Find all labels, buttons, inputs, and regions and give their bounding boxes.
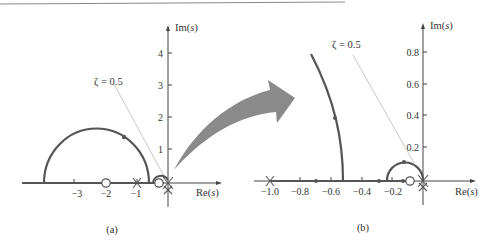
y-tick-label: 3 (158, 80, 163, 91)
zero-marker (102, 179, 110, 187)
x-axis-arrow-b (470, 179, 476, 183)
y-tick-label: 4 (158, 48, 163, 59)
zeta-line-a (114, 84, 165, 178)
y-tick-label: 2 (158, 112, 163, 123)
locus-arc-a (44, 128, 149, 183)
y-tick-label: 0.8 (407, 47, 420, 58)
x-tick-label: −3 (72, 188, 83, 199)
x-tick-label: −0.6 (322, 186, 340, 197)
zero-marker (406, 177, 414, 185)
y-tick-label: 0.2 (407, 142, 420, 153)
panel-b: −1.0 −0.8 −0.6 −0.4 −0.2 0.2 0.4 0.6 0.8… (254, 20, 478, 234)
x-tick-label: −1 (131, 188, 142, 199)
x-tick-label: −0.4 (353, 186, 371, 197)
x-tick-label: −1.0 (261, 186, 279, 197)
x-axis-label-b: Re(s) (455, 186, 478, 198)
caption-a: (a) (106, 224, 118, 236)
x-tick-label: −0.8 (291, 186, 309, 197)
zero-marker (155, 179, 163, 187)
x-tick-label: −2 (101, 188, 112, 199)
x-axis-arrow-a (216, 181, 222, 185)
root-locus-figure: −3 −2 −1 1 2 3 4 Im(s) Re(s) ζ = 0.5 (a) (0, 0, 492, 246)
zeta-label-b: ζ = 0.5 (332, 39, 361, 51)
y-axis-arrow-b (421, 23, 425, 29)
x-axis-label-a: Re(s) (196, 187, 219, 199)
transition-arrow-icon (174, 80, 295, 170)
y-tick-label: 0.6 (407, 79, 420, 90)
x-tick-label: −0.2 (384, 186, 402, 197)
y-axis-label-a: Im(s) (175, 22, 198, 34)
top-rule (0, 2, 345, 4)
zeta-line-b (353, 55, 414, 163)
zeta-label-a: ζ = 0.5 (94, 76, 123, 88)
y-axis-label-b: Im(s) (430, 20, 453, 32)
caption-b: (b) (357, 222, 370, 234)
y-tick-label: 0.4 (407, 110, 420, 121)
locus-branch-b (311, 54, 343, 181)
panel-a: −3 −2 −1 1 2 3 4 Im(s) Re(s) ζ = 0.5 (a) (22, 22, 222, 236)
y-axis-arrow-a (166, 25, 170, 31)
y-tick-label: 1 (158, 144, 163, 155)
